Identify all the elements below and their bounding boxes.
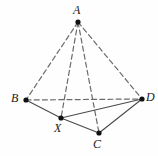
vertex-label-a: A xyxy=(73,4,80,16)
edge-a-b xyxy=(26,22,78,100)
vertex-point-d xyxy=(139,96,144,101)
edge-a-c xyxy=(78,22,99,133)
edge-x-c xyxy=(61,118,99,133)
edge-b-x xyxy=(26,100,61,118)
edges-group xyxy=(26,22,142,133)
vertex-label-d: D xyxy=(146,91,155,103)
vertex-label-c: C xyxy=(93,138,101,150)
vertex-label-b: B xyxy=(11,92,18,104)
vertex-point-a xyxy=(75,19,80,24)
vertex-point-x xyxy=(58,115,63,120)
vertex-point-c xyxy=(96,130,101,135)
edge-a-x xyxy=(61,22,78,118)
edge-a-d xyxy=(78,22,142,99)
geometry-figure: ABDXC xyxy=(0,0,158,156)
vertex-label-x: X xyxy=(54,122,61,134)
edge-b-d xyxy=(26,99,142,100)
figure-canvas xyxy=(0,0,158,156)
vertex-point-b xyxy=(23,97,28,102)
